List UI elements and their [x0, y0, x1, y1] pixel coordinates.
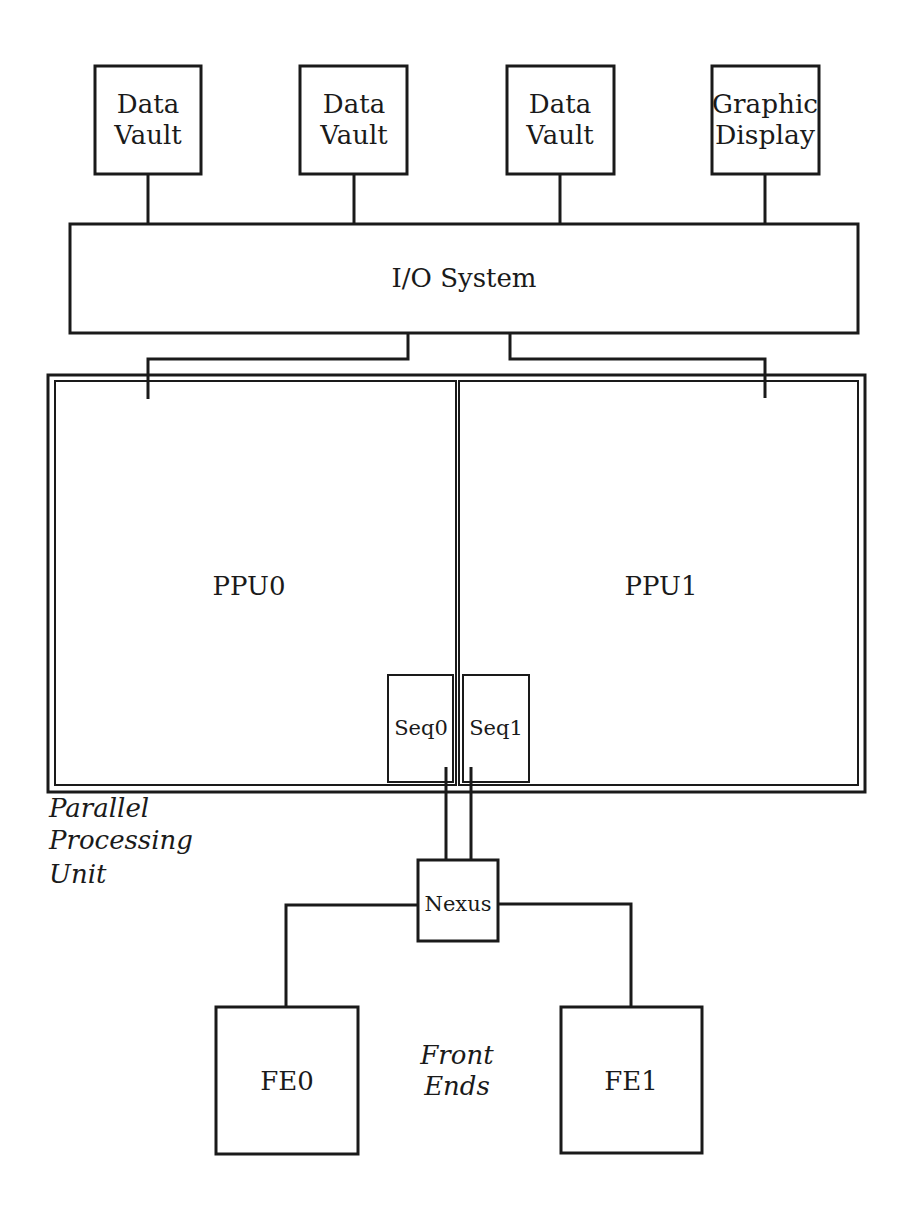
fe0-label: FE0	[260, 1066, 314, 1096]
ppu-caption-line2: Processing	[48, 825, 193, 855]
front-ends-caption-line1: Front	[419, 1040, 494, 1070]
diagram-svg: Data Vault Data Vault Data Vault Graphic…	[0, 0, 906, 1214]
front-ends-caption-line2: Ends	[423, 1071, 490, 1101]
connector-io-ppu1	[510, 333, 765, 398]
vault2-label-line1: Data	[323, 89, 385, 119]
display-label-line1: Graphic	[712, 89, 818, 119]
fe1-label: FE1	[604, 1066, 658, 1096]
connector-io-ppu0	[148, 333, 408, 399]
vault2-label-line2: Vault	[319, 120, 388, 150]
ppu0-label: PPU0	[213, 571, 286, 601]
architecture-diagram: Data Vault Data Vault Data Vault Graphic…	[0, 0, 906, 1214]
seq1-label: Seq1	[469, 716, 523, 740]
connector-nexus-fe0	[286, 905, 418, 1008]
nexus-label: Nexus	[425, 892, 492, 916]
vault3-label-line2: Vault	[525, 120, 594, 150]
vault1-label-line1: Data	[117, 89, 179, 119]
vault1-label-line2: Vault	[113, 120, 182, 150]
display-label-line2: Display	[715, 120, 815, 150]
vault3-label-line1: Data	[529, 89, 591, 119]
ppu-caption-line3: Unit	[49, 859, 107, 889]
seq0-label: Seq0	[394, 716, 448, 740]
ppu-caption-line1: Parallel	[48, 793, 149, 823]
io-system-label: I/O System	[392, 263, 537, 293]
connector-nexus-fe1	[498, 904, 631, 1008]
ppu1-label: PPU1	[625, 571, 698, 601]
